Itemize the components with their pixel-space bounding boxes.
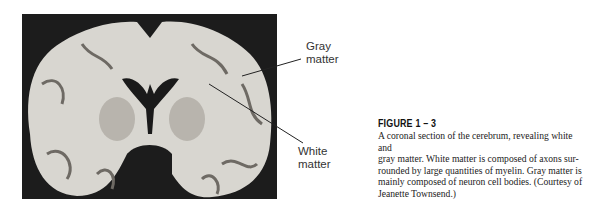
gray-matter-label-line2: matter — [306, 53, 339, 66]
gray-matter-label-line1: Gray — [306, 40, 339, 53]
caption-line: Jeanette Townsend.) — [378, 188, 583, 200]
white-matter-label-line2: matter — [298, 158, 331, 171]
brain-coronal-section-photo — [22, 14, 277, 199]
white-matter-label: White matter — [298, 145, 331, 171]
figure-caption: FIGURE 1 – 3 A coronal section of the ce… — [378, 117, 583, 200]
caption-line: rounded by large quantities of myelin. G… — [378, 165, 583, 177]
gray-matter-label: Gray matter — [306, 40, 339, 66]
white-matter-label-line1: White — [298, 145, 331, 158]
figure-number: FIGURE 1 – 3 — [378, 117, 552, 129]
caption-line: mainly composed of neuron cell bodies. (… — [378, 176, 583, 188]
caption-line: gray matter. White matter is composed of… — [378, 153, 583, 165]
caption-line: A coronal section of the cerebrum, revea… — [378, 130, 583, 153]
caption-text: A coronal section of the cerebrum, revea… — [378, 130, 583, 200]
